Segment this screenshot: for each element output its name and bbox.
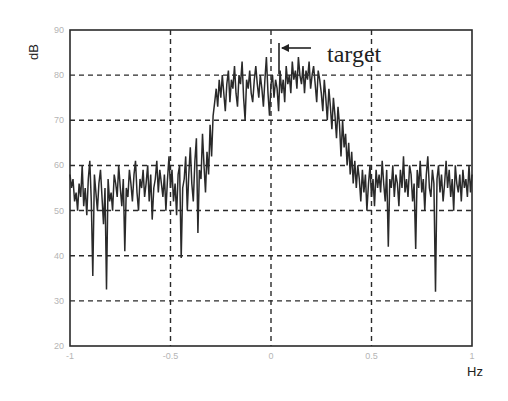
y-tick-label: 60	[54, 160, 64, 170]
x-tick-label: -0.5	[163, 351, 179, 361]
spectrum-chart: 2030405060708090 -1-0.500.51 dB Hz targe…	[0, 0, 508, 401]
y-tick-label: 80	[54, 70, 64, 80]
x-axis-label: Hz	[467, 364, 483, 379]
y-tick-label: 70	[54, 115, 64, 125]
x-tick-label: 0.5	[365, 351, 378, 361]
y-axis-ticks: 2030405060708090	[54, 25, 64, 351]
target-label: target	[327, 41, 382, 67]
y-tick-label: 40	[54, 251, 64, 261]
y-tick-label: 50	[54, 206, 64, 216]
x-tick-label: 0	[268, 351, 273, 361]
x-tick-label: -1	[66, 351, 74, 361]
x-axis-ticks: -1-0.500.51	[66, 351, 475, 361]
y-axis-label: dB	[26, 44, 41, 60]
x-tick-label: 1	[469, 351, 474, 361]
arrowhead-left-icon	[281, 44, 289, 52]
y-tick-label: 20	[54, 341, 64, 351]
y-tick-label: 30	[54, 296, 64, 306]
target-annotation: target	[279, 41, 382, 74]
y-tick-label: 90	[54, 25, 64, 35]
